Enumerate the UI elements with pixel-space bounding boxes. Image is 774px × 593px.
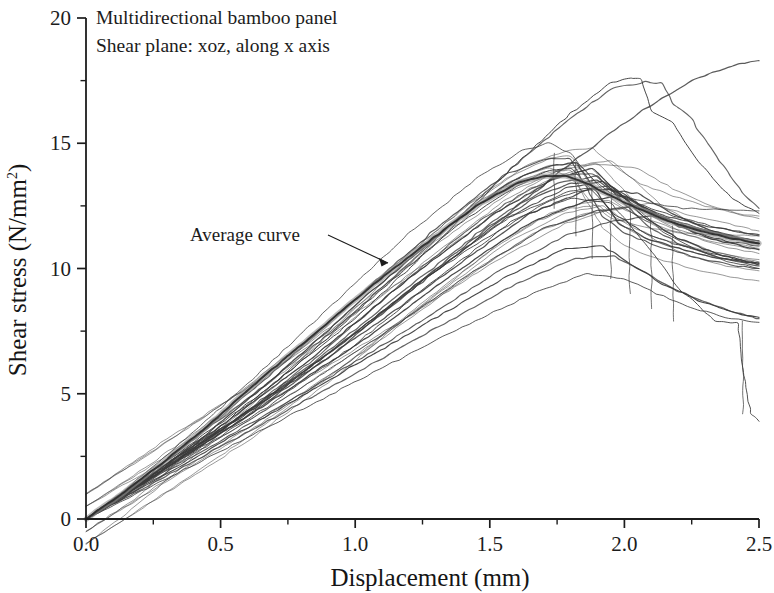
shear-stress-displacement-chart: 0.00.51.01.52.02.505101520 Multidirectio…: [0, 0, 774, 593]
x-axis-tick-label: 2.0: [611, 532, 637, 556]
average-curve-label: Average curve: [190, 224, 300, 245]
figure-root: 0.00.51.01.52.02.505101520 Multidirectio…: [0, 0, 774, 593]
y-axis-tick-label: 15: [50, 131, 71, 155]
y-axis-tick-label: 10: [50, 257, 71, 281]
x-axis-tick-label: 1.5: [477, 532, 503, 556]
y-axis-tick-label: 0: [61, 507, 72, 531]
y-axis-title: Shear stress (N/mm2): [4, 164, 32, 377]
y-axis-title-main: Shear stress (N/mm: [4, 179, 32, 377]
x-axis-tick-label: 0.0: [73, 532, 99, 556]
y-axis-title-superscript: 2: [5, 172, 20, 179]
note-line-2: Shear plane: xoz, along x axis: [96, 35, 330, 56]
x-axis-tick-label: 2.5: [746, 532, 772, 556]
x-axis-tick-label: 1.0: [342, 532, 368, 556]
note-line-1: Multidirectional bamboo panel: [96, 7, 338, 28]
y-axis-tick-label: 5: [61, 382, 72, 406]
y-axis-tick-label: 20: [50, 6, 71, 30]
x-axis-title: Displacement (mm): [330, 564, 529, 592]
y-axis-title-close: ): [4, 164, 32, 172]
x-axis-tick-label: 0.5: [207, 532, 233, 556]
svg-text:Shear stress (N/mm2): Shear stress (N/mm2): [4, 164, 32, 377]
